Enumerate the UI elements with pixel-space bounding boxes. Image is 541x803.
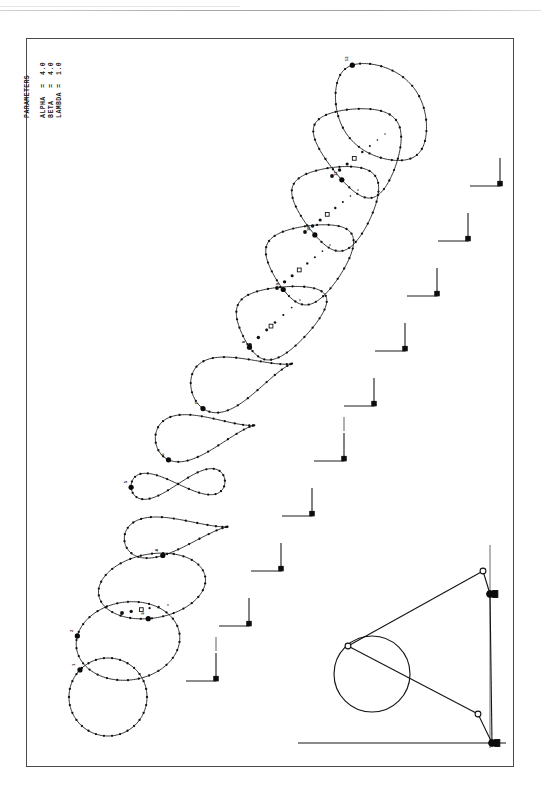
curve-4-sample-26 — [221, 526, 223, 528]
curve-4-sample-25 — [215, 525, 217, 527]
curve-1-sample-10 — [87, 730, 89, 732]
curve-7-sample-7 — [247, 397, 249, 399]
curve-11-sample-3 — [399, 146, 401, 148]
curve-12-sample-24 — [380, 157, 382, 159]
curve-1-sample-1 — [145, 704, 147, 706]
curve-4-sample-8 — [166, 553, 168, 555]
curve-7-sample-17 — [195, 366, 197, 368]
curve-5-sample-9 — [156, 474, 158, 476]
axis-marker-origin-6 — [310, 511, 314, 515]
trail-2-dot-0 — [303, 230, 307, 234]
coupler-curve-4 — [124, 517, 227, 558]
curve-3-sample-7 — [162, 615, 164, 617]
curve-5-sample-18 — [149, 498, 151, 500]
curve-11-sample-20 — [318, 118, 320, 120]
curve-index-label-10: 10 — [306, 226, 311, 231]
curve-1-sample-0 — [146, 696, 148, 698]
joint-coupler-point — [345, 643, 351, 649]
curve-5-sample-16 — [135, 496, 137, 498]
curve-10-sample-18 — [291, 189, 293, 191]
trail-0-square-marker — [269, 324, 273, 328]
axis-marker-origin-7 — [279, 566, 283, 570]
axis-marker-origin-8 — [247, 621, 251, 625]
curve-4-sample-10 — [146, 557, 148, 559]
curve-3-sample-15 — [98, 594, 100, 596]
trail-1-dot-7 — [329, 244, 330, 245]
curve-1-sample-13 — [71, 712, 73, 714]
axis-marker-5 — [314, 433, 344, 461]
curve-2-sample-9 — [116, 679, 118, 681]
curve-1-sample-27 — [138, 673, 140, 675]
curve-7-trace-point — [200, 406, 205, 411]
curve-6-sample-20 — [189, 414, 191, 416]
curve-10-sample-22 — [315, 169, 317, 171]
curve-6-sample-7 — [207, 451, 209, 453]
curve-4-sample-4 — [208, 533, 210, 535]
curve-2-sample-25 — [148, 603, 150, 605]
curve-8-sample-22 — [267, 288, 269, 290]
curve-1-sample-14 — [69, 704, 71, 706]
curve-6-sample-14 — [155, 442, 157, 444]
curve-10-sample-26 — [360, 167, 362, 169]
curve-9-sample-24 — [316, 224, 318, 226]
curve-4-sample-15 — [124, 533, 126, 535]
curve-4-sample-22 — [185, 520, 187, 522]
curve-3-sample-27 — [191, 559, 193, 561]
curve-12-sample-18 — [335, 103, 337, 105]
trail-4-dot-4 — [158, 606, 160, 608]
trail-0-dot-1 — [257, 336, 260, 339]
curve-8-sample-2 — [323, 308, 325, 310]
figure-page: PARAMETERS ALPHA = 4.0 BETA = 4.0 LAMBDA… — [0, 0, 541, 803]
curve-3-sample-5 — [182, 607, 184, 609]
curve-4-sample-14 — [123, 540, 125, 542]
curve-10-sample-4 — [372, 212, 374, 214]
axis-marker-4 — [344, 378, 374, 406]
axis-marker-origin-5 — [342, 456, 346, 460]
curve-12-sample-1 — [421, 148, 423, 150]
curve-8-sample-26 — [313, 287, 315, 289]
curve-11-sample-7 — [383, 188, 385, 190]
link-coupler-upper — [348, 571, 483, 646]
curve-9-sample-7 — [322, 295, 324, 297]
curve-2-sample-2 — [176, 649, 178, 651]
curve-1-sample-21 — [95, 659, 97, 661]
coupler-curve-2 — [76, 602, 180, 681]
curve-2-sample-1 — [178, 641, 180, 643]
curve-9-sample-26 — [338, 225, 340, 227]
coupler-curve-3 — [99, 553, 206, 619]
curve-11-sample-14 — [332, 168, 334, 170]
curve-10-sample-2 — [377, 190, 379, 192]
curve-7-sample-11 — [208, 411, 210, 413]
curve-12-sample-19 — [337, 115, 339, 117]
curve-2-sample-4 — [165, 664, 167, 666]
curve-7-sample-14 — [191, 391, 193, 393]
trail-3-dot-6 — [377, 139, 379, 141]
curve-6-sample-16 — [157, 426, 159, 428]
curve-6-sample-25 — [242, 424, 244, 426]
curve-6-sample-3 — [243, 428, 245, 430]
curve-7-sample-27 — [290, 363, 292, 365]
curve-12-sample-5 — [423, 107, 425, 109]
curve-1-sample-7 — [111, 735, 113, 737]
axis-marker-7 — [251, 543, 281, 571]
curve-8-sample-19 — [241, 298, 243, 300]
curve-7-sample-19 — [212, 357, 214, 359]
curve-6-sample-9 — [187, 459, 189, 461]
curve-8-sample-15 — [238, 327, 240, 329]
trail-0-dot-3 — [274, 321, 277, 324]
trail-2-dot-4 — [334, 207, 336, 209]
curve-9-sample-2 — [352, 247, 354, 249]
joint-upper-ground-support — [493, 591, 498, 598]
curve-9-sample-22 — [292, 227, 294, 229]
curve-9-sample-27 — [345, 228, 347, 230]
curve-index-label-2: 2 — [69, 629, 74, 632]
curve-9-sample-11 — [294, 300, 296, 302]
curve-1-sample-3 — [138, 719, 140, 721]
curve-9-sample-17 — [265, 253, 267, 255]
curve-3-sample-2 — [202, 589, 204, 591]
dotted-trail-group — [120, 133, 386, 615]
curve-8-sample-25 — [303, 286, 305, 288]
curve-index-label-4: 4 — [154, 548, 159, 551]
curve-4-sample-9 — [155, 556, 157, 558]
curve-12-sample-3 — [425, 130, 427, 132]
